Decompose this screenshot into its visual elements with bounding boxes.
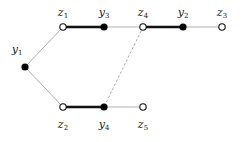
- label-z5: z5: [137, 118, 148, 132]
- node-z1: [60, 24, 66, 30]
- node-z5: [140, 104, 146, 110]
- label-y2: y2: [177, 6, 189, 20]
- edge-y1-z1: [25, 27, 63, 67]
- node-y4: [100, 103, 107, 110]
- nodes-layer: [21, 23, 225, 110]
- label-y1: y1: [11, 43, 23, 57]
- label-z4: z4: [137, 6, 149, 20]
- label-y4: y4: [98, 118, 110, 132]
- node-y1: [21, 63, 28, 70]
- node-z3: [219, 24, 225, 30]
- node-y3: [100, 23, 107, 30]
- edge-z4-y4: [104, 27, 143, 107]
- label-y3: y3: [98, 6, 110, 20]
- node-y2: [179, 23, 186, 30]
- labels-layer: y1z1y3z4y2z3z2y4z5: [11, 6, 227, 132]
- graph-diagram: y1z1y3z4y2z3z2y4z5: [0, 0, 244, 142]
- edge-y1-z2: [25, 67, 63, 107]
- label-z3: z3: [216, 6, 227, 20]
- label-z2: z2: [57, 118, 68, 132]
- label-z1: z1: [57, 6, 68, 20]
- edges-layer: [25, 27, 222, 107]
- node-z4: [140, 24, 146, 30]
- node-z2: [60, 104, 66, 110]
